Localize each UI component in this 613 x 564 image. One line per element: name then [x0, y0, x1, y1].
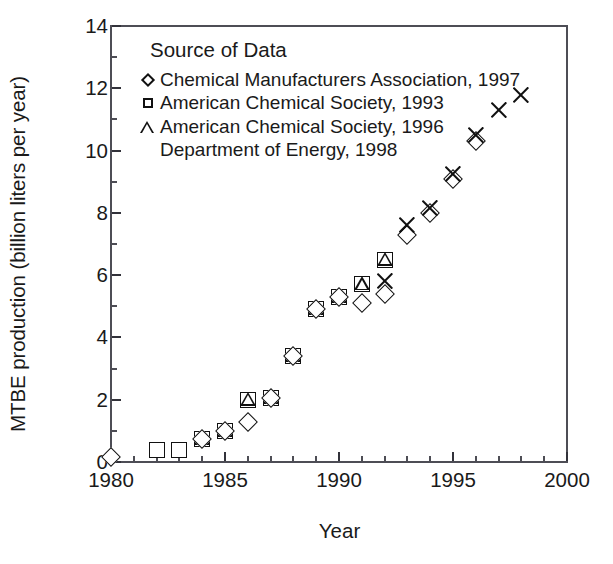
legend-marker	[138, 92, 160, 114]
x-tick-major	[224, 452, 226, 461]
legend-entry: Department of Energy, 1998	[138, 139, 548, 163]
legend-entry: American Chemical Society, 1993	[138, 92, 548, 116]
legend-marker	[138, 139, 160, 161]
x-tick-minor	[361, 456, 363, 461]
legend-label: Department of Energy, 1998	[160, 139, 397, 161]
x-tick-minor	[201, 456, 203, 461]
x-tick-minor	[247, 456, 249, 461]
diamond-marker-icon	[238, 412, 258, 432]
legend-entry: American Chemical Society, 1996	[138, 115, 548, 139]
triangle-marker-icon	[140, 121, 154, 133]
y-tick-major	[112, 399, 121, 401]
chart-figure: MTBE production (billion liters per year…	[0, 0, 613, 564]
legend-entries: Chemical Manufacturers Association, 1997…	[138, 68, 548, 162]
diamond-marker-icon	[141, 73, 155, 87]
y-tick-label: 8	[48, 203, 108, 223]
y-tick-label: 10	[48, 141, 108, 161]
legend-marker	[138, 69, 160, 91]
x-tick-minor	[384, 456, 386, 461]
y-tick-label: 4	[48, 327, 108, 347]
y-tick-label: 2	[48, 390, 108, 410]
x-tick-major	[566, 452, 568, 461]
y-tick-minor	[112, 368, 117, 370]
x-tick-minor	[406, 456, 408, 461]
legend-label: American Chemical Society, 1993	[160, 92, 444, 114]
x-tick-minor	[475, 456, 477, 461]
cross-marker-icon	[397, 215, 417, 235]
x-tick-label: 1990	[284, 469, 394, 491]
y-tick-major	[112, 25, 121, 27]
y-tick-major	[112, 150, 121, 152]
y-tick-major	[112, 336, 121, 338]
y-tick-minor	[112, 430, 117, 432]
y-tick-major	[112, 212, 121, 214]
x-tick-label: 1995	[398, 469, 508, 491]
cross-marker-icon	[141, 143, 155, 157]
square-marker-icon	[143, 98, 153, 108]
x-tick-minor	[498, 456, 500, 461]
cross-marker-icon	[420, 198, 440, 218]
triangle-marker-icon	[377, 252, 393, 266]
square-marker-icon	[171, 442, 187, 458]
legend-title: Source of Data	[150, 37, 548, 63]
y-tick-major	[112, 87, 121, 89]
y-tick-minor	[112, 118, 117, 120]
x-tick-major	[338, 452, 340, 461]
x-tick-minor	[270, 456, 272, 461]
y-tick-major	[112, 274, 121, 276]
x-tick-minor	[520, 456, 522, 461]
x-tick-label: 2000	[512, 469, 613, 491]
x-tick-minor	[543, 456, 545, 461]
legend-marker	[138, 116, 160, 138]
y-tick-minor	[112, 243, 117, 245]
plot-area: 02468101214 19801985199019952000 Source …	[110, 25, 568, 463]
cross-marker-icon	[443, 164, 463, 184]
x-tick-major	[452, 452, 454, 461]
triangle-marker-icon	[354, 276, 370, 290]
axis-line-top	[110, 25, 568, 27]
x-tick-minor	[133, 456, 135, 461]
x-tick-minor	[315, 456, 317, 461]
cross-marker-icon	[375, 271, 395, 291]
y-axis-title: MTBE production (billion liters per year…	[1, 19, 35, 489]
x-tick-minor	[429, 456, 431, 461]
legend-label: Chemical Manufacturers Association, 1997	[160, 69, 520, 91]
triangle-marker-icon	[240, 392, 256, 406]
y-tick-minor	[112, 305, 117, 307]
axis-line-bottom	[110, 461, 568, 463]
legend-entry: Chemical Manufacturers Association, 1997	[138, 68, 548, 92]
x-tick-minor	[292, 456, 294, 461]
diamond-marker-icon	[352, 293, 372, 313]
square-marker-icon	[149, 442, 165, 458]
y-tick-label: 14	[48, 16, 108, 36]
x-tick-label: 1985	[170, 469, 280, 491]
legend-label: American Chemical Society, 1996	[160, 116, 444, 138]
x-tick-label: 1980	[56, 469, 166, 491]
y-tick-label: 12	[48, 78, 108, 98]
y-tick-minor	[112, 56, 117, 58]
y-tick-label: 6	[48, 265, 108, 285]
y-tick-minor	[112, 181, 117, 183]
axis-line-right	[566, 25, 568, 463]
x-axis-title: Year	[110, 518, 569, 544]
chart-legend: Source of Data Chemical Manufacturers As…	[138, 37, 548, 162]
